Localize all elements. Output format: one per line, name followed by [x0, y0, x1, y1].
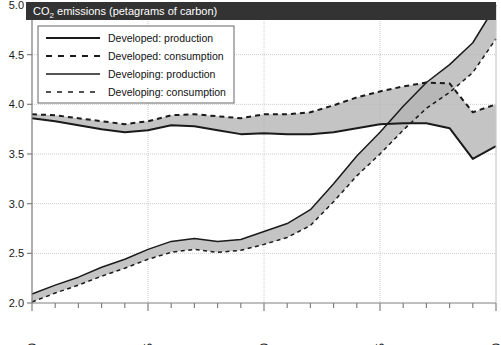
title-co-text: CO — [33, 5, 50, 17]
chart-container: 2.02.53.03.54.04.55.0 199019952000200520… — [0, 0, 501, 345]
legend-label-3: Developing: consumption — [108, 86, 226, 98]
y-tick-label: 3.5 — [9, 148, 24, 160]
y-axis-ticks: 2.02.53.03.54.04.55.0 — [9, 0, 32, 309]
y-tick-label: 4.0 — [9, 98, 24, 110]
co2-emissions-area-chart: 2.02.53.03.54.04.55.0 199019952000200520… — [0, 0, 501, 345]
legend-label-0: Developed: production — [108, 32, 213, 44]
chart-legend: Developed: productionDeveloped: consumpt… — [38, 26, 234, 103]
x-axis-ticks: 19901995200020052010 — [26, 303, 501, 345]
legend-label-2: Developing: production — [108, 68, 216, 80]
y-tick-label: 2.0 — [9, 297, 24, 309]
y-tick-label: 3.0 — [9, 198, 24, 210]
y-tick-label: 5.0 — [9, 0, 24, 11]
y-tick-label: 4.5 — [9, 49, 24, 61]
title-rest-text: emissions (petagrams of carbon) — [54, 5, 217, 17]
y-tick-label: 2.5 — [9, 247, 24, 259]
chart-title-bar: CO2 emissions (petagrams of carbon) — [26, 2, 496, 20]
legend-label-1: Developed: consumption — [108, 50, 224, 62]
